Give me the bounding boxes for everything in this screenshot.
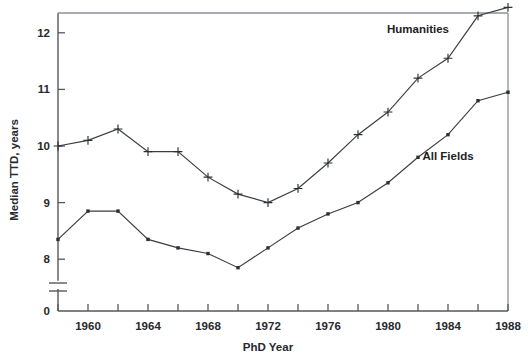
data-point-marker xyxy=(506,91,509,94)
data-point-marker xyxy=(476,99,479,102)
data-point-marker xyxy=(386,181,389,184)
y-tick-label-12: 12 xyxy=(37,27,50,39)
y-tick-label-9: 9 xyxy=(44,197,50,209)
x-tick-label-1960: 1960 xyxy=(75,320,101,332)
data-point-marker xyxy=(84,136,93,145)
y-tick-label-11: 11 xyxy=(38,83,51,95)
y-axis-title: Median TTD, years xyxy=(8,119,20,221)
annotation-humanities: Humanities xyxy=(387,23,449,35)
data-point-marker xyxy=(356,201,359,204)
data-point-marker xyxy=(206,252,209,255)
data-point-marker xyxy=(116,209,119,212)
x-tick-label-1968: 1968 xyxy=(195,320,221,332)
data-point-marker xyxy=(296,226,299,229)
x-tick-label-1980: 1980 xyxy=(375,320,401,332)
data-point-marker xyxy=(326,212,329,215)
data-point-marker xyxy=(264,198,273,207)
x-tick-label-1988: 1988 xyxy=(495,320,521,332)
data-point-marker xyxy=(444,54,453,63)
x-axis-title: PhD Year xyxy=(243,341,294,353)
data-point-marker xyxy=(114,125,123,134)
data-point-marker xyxy=(54,142,63,151)
data-point-marker xyxy=(86,209,89,212)
data-series xyxy=(54,3,513,269)
data-point-marker xyxy=(266,246,269,249)
data-point-marker xyxy=(236,266,239,269)
x-tick-label-1984: 1984 xyxy=(435,320,461,332)
x-axis-tick-labels: 19601964196819721976198019841988 xyxy=(75,320,521,332)
x-tick-label-1976: 1976 xyxy=(315,320,341,332)
data-point-marker xyxy=(234,190,243,199)
x-tick-label-1964: 1964 xyxy=(135,320,161,332)
x-tick-label-1972: 1972 xyxy=(255,320,281,332)
y-tick-label-10: 10 xyxy=(37,140,50,152)
y-tick-label-zero: 0 xyxy=(44,305,50,317)
data-point-marker xyxy=(56,238,59,241)
series-line-0 xyxy=(58,7,508,202)
annotation-all-fields: All Fields xyxy=(422,150,473,162)
series-annotations: HumanitiesAll Fields xyxy=(387,23,474,162)
chart-container: 19601964196819721976198019841988 8910111… xyxy=(0,0,528,357)
chart-plot: 19601964196819721976198019841988 8910111… xyxy=(0,0,528,357)
y-tick-label-8: 8 xyxy=(44,253,51,265)
series-line-1 xyxy=(58,92,508,267)
series-all-fields xyxy=(56,91,509,270)
data-point-marker xyxy=(146,238,149,241)
data-point-marker xyxy=(446,133,449,136)
data-point-marker xyxy=(176,246,179,249)
x-axis-ticks xyxy=(58,304,508,311)
data-point-marker xyxy=(144,147,153,156)
data-point-marker xyxy=(504,3,513,12)
data-point-marker xyxy=(416,156,419,159)
y-axis-tick-labels: 891011120 xyxy=(37,27,50,317)
